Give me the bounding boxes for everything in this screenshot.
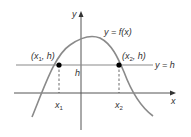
h-axis-label: h (75, 68, 80, 78)
point-1-label: (x1, h) (31, 51, 55, 62)
line-label: y = h (154, 60, 175, 70)
point-x2-h (116, 62, 121, 67)
curve-f (32, 36, 153, 117)
y-axis-label: y (71, 9, 77, 19)
x1-tick-label: x1 (54, 100, 64, 111)
x-axis-arrow-icon (170, 91, 176, 96)
x-axis-label: x (170, 96, 176, 106)
point-x1-h (56, 62, 61, 67)
x2-tick-label: x2 (114, 100, 124, 111)
function-graph: y x y = f(x) y = h h (x1, h) (x2, h) x1 … (0, 0, 191, 137)
x-axis (14, 91, 176, 96)
point-2-label: (x2, h) (122, 51, 146, 62)
curve-label: y = f(x) (103, 27, 132, 37)
y-axis-arrow-icon (79, 11, 84, 17)
